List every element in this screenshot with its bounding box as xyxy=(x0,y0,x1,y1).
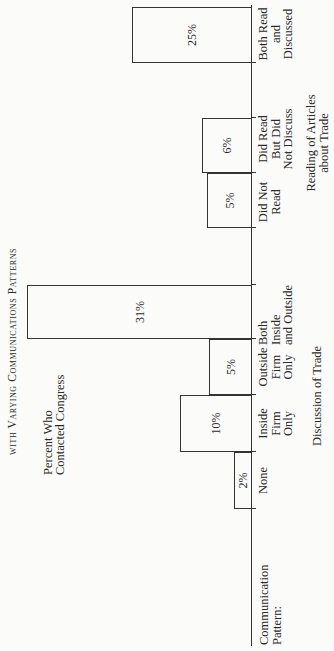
bar-outside-firm-only: 5% xyxy=(209,339,252,395)
bar-none: 2% xyxy=(234,452,252,509)
bar-value-label: 10% xyxy=(209,413,224,435)
category-label-read-not-discuss: Did Read But Did Not Discuss xyxy=(257,103,295,175)
axis-tick xyxy=(252,227,256,228)
rotated-chart-page: with Varying Communications Patterns Per… xyxy=(0,0,334,651)
category-label-none: None xyxy=(257,452,270,509)
axis-tick xyxy=(252,394,256,395)
bar-both-read-discussed: 25% xyxy=(132,7,252,63)
group-label-discussion: Discussion of Trade xyxy=(311,331,324,461)
axis-tick xyxy=(252,451,256,452)
axis-tick xyxy=(252,172,256,173)
y-axis-label-line2: Contacted Congress xyxy=(54,375,66,475)
bar-value-label: 5% xyxy=(224,359,239,375)
category-label-both-inside-outside: Both Inside and Outside xyxy=(257,255,295,345)
chart-title: with Varying Communications Patterns xyxy=(6,155,18,455)
bar-both-inside-outside: 31% xyxy=(27,285,252,339)
bar-value-label: 31% xyxy=(133,301,148,323)
group-label-reading: Reading of Articles about Trade xyxy=(305,78,330,208)
bar-did-not-read: 5% xyxy=(207,173,252,228)
category-label-inside-firm-only: Inside Firm Only xyxy=(257,395,295,452)
bar-value-label: 25% xyxy=(185,24,200,46)
category-label-outside-firm-only: Outside Firm Only xyxy=(257,339,295,395)
category-label-did-not-read: Did Not Read xyxy=(257,171,282,233)
axis-tick xyxy=(252,62,256,63)
bar-inside-firm-only: 10% xyxy=(180,395,252,452)
bar-value-label: 5% xyxy=(223,193,238,209)
x-axis-baseline xyxy=(251,5,252,646)
axis-tick xyxy=(252,284,256,285)
category-label-both-read-discussed: Both Read and Discussed xyxy=(257,1,295,67)
axis-tick xyxy=(252,508,256,509)
y-axis-label: Percent Who Contacted Congress xyxy=(42,375,66,475)
communication-pattern-label: Communication Pattern: xyxy=(258,535,283,645)
bar-value-label: 6% xyxy=(220,138,235,154)
bar-value-label: 2% xyxy=(236,473,251,489)
bar-read-not-discuss: 6% xyxy=(202,118,252,173)
